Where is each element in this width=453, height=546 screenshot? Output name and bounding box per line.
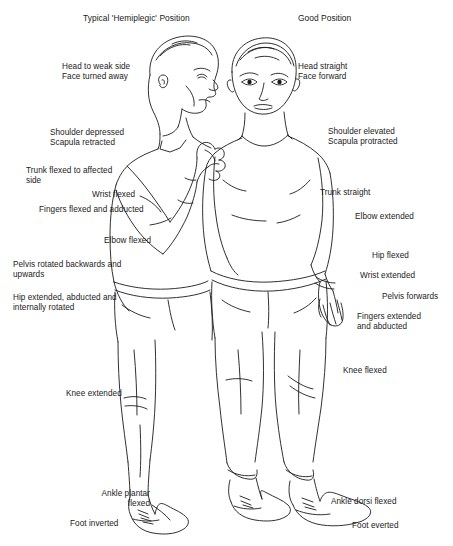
label-head-to-weak-side: Head to weak side Face turned away (62, 62, 130, 83)
heading-typical-hemiplegic-position: Typical 'Hemiplegic' Position (83, 13, 190, 23)
label-head-straight: Head straight Face forward (298, 62, 347, 83)
label-elbow-extended: Elbow extended (355, 212, 414, 222)
label-foot-everted: Foot everted (352, 521, 399, 531)
label-wrist-flexed: Wrist flexed (92, 190, 135, 200)
label-shoulder-elevated: Shoulder elevated (328, 127, 395, 137)
label-knee-extended: Knee extended (66, 389, 122, 399)
label-scapula-protracted: Scapula protracted (328, 137, 398, 147)
label-fingers-flexed-and-adducted: Fingers flexed and adducted (39, 205, 144, 215)
label-foot-inverted: Foot inverted (70, 519, 118, 529)
label-wrist-extended: Wrist extended (360, 271, 415, 281)
label-ankle-plantar-flexed: Ankle plantar flexed (60, 489, 150, 510)
label-shoulder-depressed: Shoulder depressed Scapula retracted (50, 128, 124, 149)
label-hip-flexed: Hip flexed (372, 251, 409, 261)
label-trunk-flexed-to-affected-side: Trunk flexed to affected side (26, 166, 112, 187)
label-trunk-straight: Trunk straight (320, 188, 370, 198)
label-pelvis-forwards: Pelvis forwards (382, 292, 438, 302)
label-elbow-flexed: Elbow flexed (104, 236, 151, 246)
label-ankle-dorsi-flexed: Ankle dorsi flexed (331, 497, 397, 507)
label-pelvis-rotated-backwards-and-upwards: Pelvis rotated backwards and upwards (13, 260, 121, 281)
label-fingers-extended-and-abducted: Fingers extended and abducted (357, 312, 421, 333)
heading-good-position: Good Position (298, 13, 351, 23)
label-hip-extended-abducted-internally-rotated: Hip extended, abducted and internally ro… (13, 293, 117, 314)
figure-page: Typical 'Hemiplegic' Position Good Posit… (0, 0, 453, 546)
label-knee-flexed: Knee flexed (343, 366, 387, 376)
